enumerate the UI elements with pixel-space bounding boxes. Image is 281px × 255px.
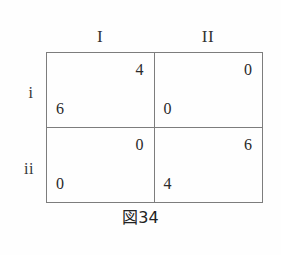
row-header-i: i <box>18 85 44 101</box>
row-header-ii: ii <box>14 161 44 177</box>
matrix-cell-i-I: 4 6 <box>47 53 155 127</box>
column-header-II: II <box>186 28 230 45</box>
row-player-payoff: 6 <box>56 101 64 117</box>
matrix-cell-i-II: 0 0 <box>155 53 263 127</box>
matrix-row: 4 6 0 0 <box>47 53 262 128</box>
payoff-matrix-grid: 4 6 0 0 0 0 6 4 <box>46 52 263 203</box>
column-player-payoff: 0 <box>136 137 144 153</box>
column-player-payoff: 0 <box>244 62 252 78</box>
row-player-payoff: 0 <box>56 176 64 192</box>
matrix-cell-ii-I: 0 0 <box>47 128 155 203</box>
row-player-payoff: 4 <box>164 176 172 192</box>
column-player-payoff: 6 <box>244 137 252 153</box>
column-player-payoff: 4 <box>136 62 144 78</box>
column-header-I: I <box>78 28 122 45</box>
payoff-matrix-figure: I II i ii 4 6 0 0 0 0 6 4 図34 <box>0 0 281 255</box>
matrix-cell-ii-II: 6 4 <box>155 128 263 203</box>
matrix-row: 0 0 6 4 <box>47 128 262 203</box>
figure-caption: 図34 <box>0 210 281 226</box>
row-player-payoff: 0 <box>164 101 172 117</box>
